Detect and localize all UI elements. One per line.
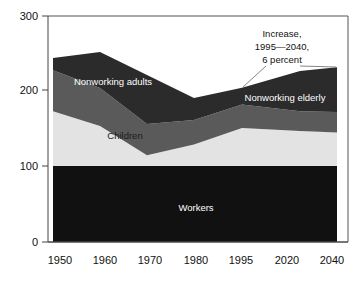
x-tick-label-1950: 1950	[48, 254, 72, 266]
stacked-area-chart: 0 100 200 300 1950 1960 1970 1980 1995 2…	[0, 0, 362, 281]
y-tick-label-200: 200	[20, 84, 38, 96]
x-tick-label-1960: 1960	[93, 254, 117, 266]
series-label-workers: Workers	[178, 202, 213, 213]
chart-canvas: 0 100 200 300 1950 1960 1970 1980 1995 2…	[0, 0, 362, 281]
y-axis-labels: 0 100 200 300	[20, 10, 38, 248]
series-label-nonworking-elderly: Nonworking elderly	[245, 92, 326, 103]
x-tick-label-2040: 2040	[320, 254, 344, 266]
y-tick-marks	[42, 16, 48, 242]
x-axis-labels: 1950 1960 1970 1980 1995 2020 2040	[48, 254, 344, 266]
y-tick-label-100: 100	[20, 160, 38, 172]
y-tick-label-0: 0	[32, 236, 38, 248]
series-label-children: Children	[107, 130, 142, 141]
x-tick-label-1980: 1980	[184, 254, 208, 266]
callout-line-2: 1995—2040,	[255, 41, 309, 52]
callout-line-3: 6 percent	[262, 54, 302, 65]
y-tick-label-300: 300	[20, 10, 38, 22]
x-tick-label-2020: 2020	[275, 254, 299, 266]
callout-line-1: Increase,	[262, 28, 301, 39]
x-tick-label-1995: 1995	[229, 254, 253, 266]
x-tick-label-1970: 1970	[138, 254, 162, 266]
series-label-nonworking-adults: Nonworking adults	[74, 76, 152, 87]
